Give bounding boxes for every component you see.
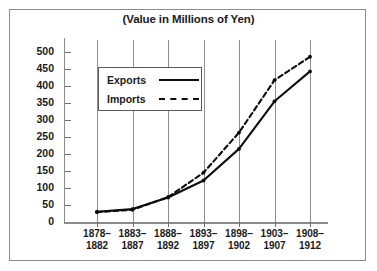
plot-area: 050100150200250300350400450500 1878–1882… xyxy=(0,0,377,271)
legend-swatch-dashed-line xyxy=(159,98,199,100)
legend-item-imports: Imports xyxy=(107,90,199,108)
data-point xyxy=(131,208,135,212)
series-lines xyxy=(0,0,377,271)
data-point xyxy=(273,99,277,103)
data-point xyxy=(273,78,277,82)
data-point xyxy=(237,147,241,151)
data-point xyxy=(202,179,206,183)
legend-item-exports: Exports xyxy=(107,71,199,89)
data-point xyxy=(308,55,312,59)
legend-label-imports: Imports xyxy=(107,93,146,105)
legend-swatch-solid-line xyxy=(159,79,199,81)
data-point xyxy=(237,131,241,135)
data-point xyxy=(95,210,99,214)
data-point xyxy=(308,69,312,73)
legend-label-exports: Exports xyxy=(107,74,146,86)
legend: Exports Imports xyxy=(98,67,202,111)
data-point xyxy=(202,171,206,175)
data-point xyxy=(166,195,170,199)
chart-page: (Value in Millions of Yen) 0501001502002… xyxy=(0,0,377,271)
